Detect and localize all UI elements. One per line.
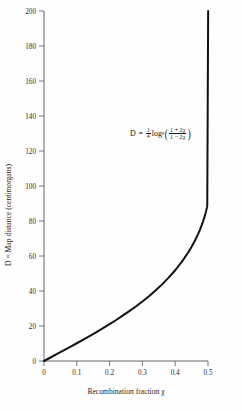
y-tick-label: 200 — [25, 8, 36, 16]
chart-canvas: 200 180 160 140 120 100 80 60 40 20 0 0 … — [0, 0, 242, 411]
y-axis-ticks — [39, 11, 44, 361]
equation-main-fraction: 1 + 2χ 1 − 2χ — [169, 127, 186, 141]
equation-lhs: D — [130, 130, 136, 138]
kosambi-curve — [44, 11, 208, 361]
x-tick-label: 0 — [42, 369, 46, 377]
y-tick-label: 100 — [25, 183, 36, 191]
fraction-denominator: 1 − 2χ — [169, 133, 186, 140]
y-tick-labels: 200 180 160 140 120 100 80 60 40 20 0 — [25, 8, 36, 366]
y-tick-label: 140 — [25, 113, 36, 121]
equation-annotation: D = 1 4 loge ( 1 + 2χ 1 − 2χ ) — [130, 127, 191, 141]
y-tick-label: 80 — [29, 218, 37, 226]
equation-log-text: log — [152, 130, 162, 138]
y-tick-label: 0 — [32, 358, 36, 366]
equation-equals-sign: = — [138, 130, 143, 138]
figure-panel: 200 180 160 140 120 100 80 60 40 20 0 0 … — [0, 0, 242, 411]
coefficient-denominator: 4 — [146, 133, 151, 140]
y-axis-title: D = Map distance (centimorgans) — [4, 164, 13, 266]
x-tick-label: 0.5 — [204, 369, 213, 377]
equation-coefficient-fraction: 1 4 — [146, 128, 151, 140]
paren-open: ( — [165, 127, 168, 140]
y-tick-label: 60 — [29, 253, 37, 261]
x-tick-labels: 0 0.1 0.2 0.3 0.4 0.5 — [42, 369, 213, 377]
x-axis-ticks — [44, 361, 208, 366]
x-tick-label: 0.4 — [171, 369, 180, 377]
y-tick-label: 120 — [25, 148, 36, 156]
x-tick-label: 0.1 — [72, 369, 81, 377]
paren-close: ) — [188, 127, 191, 140]
x-tick-label: 0.2 — [105, 369, 114, 377]
x-tick-label: 0.3 — [138, 369, 147, 377]
y-tick-label: 20 — [29, 323, 37, 331]
y-tick-label: 40 — [29, 288, 37, 296]
y-tick-label: 180 — [25, 43, 36, 51]
y-tick-label: 160 — [25, 78, 36, 86]
x-axis-title: Recombination fraction χ — [87, 387, 165, 396]
